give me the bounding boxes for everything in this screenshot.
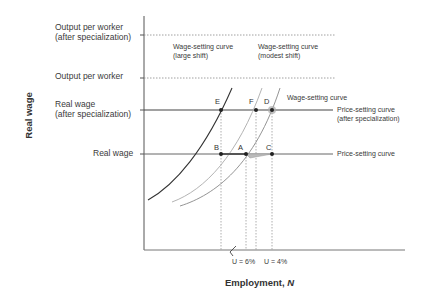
point-f-label: F xyxy=(249,97,254,106)
point-b-label: B xyxy=(214,143,219,152)
point-c-label: C xyxy=(266,143,271,152)
ps-after-label: Price-setting curve(after specialization… xyxy=(337,106,400,123)
x-axis-title: Employment, N xyxy=(225,277,294,288)
ws-modest-label: Wage-setting curve(modest shift) xyxy=(258,43,318,60)
y-label-realwage-after: Real wage(after specialization) xyxy=(55,99,131,119)
x-tick-u6: U = 6% xyxy=(232,258,255,267)
point-a-label: A xyxy=(238,143,243,152)
x-tick-u4: U = 4% xyxy=(264,258,287,267)
y-axis-title: Real wage xyxy=(23,86,34,146)
y-label-output-after: Output per worker(after specialization) xyxy=(55,22,131,42)
point-e-label: E xyxy=(215,97,220,106)
axis-break-icon xyxy=(230,246,236,256)
ws-large-label: Wage-setting curve(large shift) xyxy=(173,43,233,60)
y-label-realwage: Real wage xyxy=(93,148,133,158)
ps-label: Price-setting curve xyxy=(337,150,395,159)
ws-label: Wage-setting curve xyxy=(287,94,347,103)
y-label-output: Output per worker xyxy=(55,71,123,81)
point-d-label: D xyxy=(264,97,269,106)
